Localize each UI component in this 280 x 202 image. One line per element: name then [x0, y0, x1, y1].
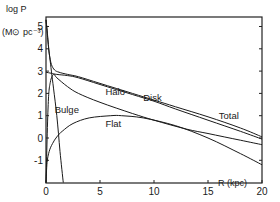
- chart: 05101520-1012345 HaloDiskBulgeFlatTotal …: [0, 0, 280, 202]
- x-tick-label: 20: [256, 186, 268, 197]
- series-label-total: Total: [219, 110, 239, 121]
- y-tick-label: -1: [34, 155, 43, 166]
- x-tick-label: 0: [43, 186, 49, 197]
- y-tick-label: 0: [37, 133, 43, 144]
- y-tick-label: 3: [37, 66, 43, 77]
- y-tick-label: 1: [37, 110, 43, 121]
- x-tick-label: 15: [202, 186, 214, 197]
- y-tick-label: 2: [37, 88, 43, 99]
- x-axis-label: R (kpc): [218, 178, 247, 188]
- x-tick-label: 10: [148, 186, 160, 197]
- series-label-halo: Halo: [105, 86, 125, 97]
- series-label-flat: Flat: [105, 118, 121, 129]
- series-label-disk: Disk: [143, 92, 162, 103]
- series-label-bulge: Bulge: [55, 104, 79, 115]
- series-halo-line: [46, 74, 262, 182]
- x-tick-label: 5: [97, 186, 103, 197]
- y-axis-unit: (M⊙ pc⁻³): [2, 27, 44, 37]
- series-flat-line: [46, 115, 262, 182]
- y-tick-label: 4: [37, 43, 43, 54]
- y-axis-label: log P: [6, 4, 27, 14]
